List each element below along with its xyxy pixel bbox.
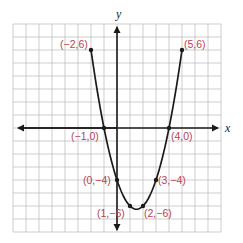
label-5-6: (5,6)	[184, 38, 206, 50]
label-3-m4: (3,−4)	[158, 174, 186, 186]
point-m2-6	[89, 48, 93, 52]
label-0-m4: (0,−4)	[83, 174, 111, 186]
label-m2-6: (−2,6)	[60, 38, 88, 50]
label-1-m6: (1,−6)	[97, 207, 125, 219]
label-2-m6: (2,−6)	[144, 207, 172, 219]
y-axis-label: y	[115, 7, 122, 21]
x-axis-label: x	[224, 121, 231, 135]
point-1-m6	[128, 204, 132, 208]
point-0-m4	[115, 178, 119, 182]
point-m1-0	[102, 126, 106, 130]
parabola-graph: x y (−2,6) (−1,0) (0,−4) (1,−6) (2,−6) (…	[0, 0, 243, 243]
label-4-0: (4,0)	[171, 130, 193, 142]
label-m1-0: (−1,0)	[71, 130, 99, 142]
